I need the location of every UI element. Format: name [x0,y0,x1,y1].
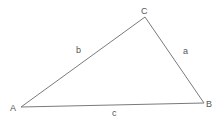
triangle-abc [21,17,204,107]
side-label-c: c [112,108,117,118]
triangle-diagram: A B C a b c [0,0,224,121]
vertex-label-a: A [10,103,16,113]
side-label-b: b [76,45,81,55]
vertex-label-c: C [141,6,148,16]
vertex-label-b: B [206,99,212,109]
side-label-a: a [183,46,188,56]
